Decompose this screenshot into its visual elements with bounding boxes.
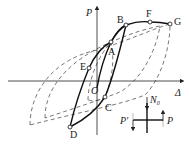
label-D: D <box>70 129 77 140</box>
D-E <box>70 68 89 127</box>
point-A <box>109 40 113 44</box>
points <box>68 20 172 129</box>
point-F <box>148 20 152 24</box>
hysteresis-diagram: P Δ O A B F G E C D N0 P P′ <box>0 0 189 150</box>
label-C: C <box>105 102 112 113</box>
label-B: B <box>117 14 124 25</box>
solid-loop <box>70 22 170 127</box>
force-right-label: P <box>166 115 173 126</box>
envelope-curve <box>89 22 170 68</box>
label-F: F <box>146 8 152 19</box>
y-axis-label: P <box>85 7 92 18</box>
label-G: G <box>174 16 181 27</box>
origin-label: O <box>91 85 98 96</box>
force-left-label: P′ <box>119 115 129 126</box>
point-G <box>168 22 172 26</box>
axial-load-label: N0 <box>149 94 160 106</box>
label-E: E <box>80 61 86 72</box>
point-E <box>87 66 91 70</box>
label-A: A <box>108 46 116 57</box>
dashed-loop-middle <box>45 26 160 118</box>
point-C <box>103 95 107 99</box>
loading-inset: N0 P P′ <box>119 94 173 133</box>
C-D <box>70 97 105 127</box>
x-axis-label: Δ <box>174 87 181 98</box>
point-B <box>124 23 128 27</box>
